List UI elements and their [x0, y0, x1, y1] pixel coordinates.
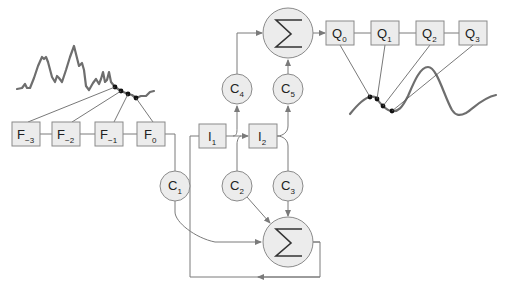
coefficient-c1: C1: [160, 171, 190, 201]
filter-tap-f-1: F−1: [95, 122, 123, 146]
coefficient-c4: C4: [222, 74, 252, 104]
output-tap-q1: Q1: [371, 21, 399, 45]
summer-bottom: [263, 217, 313, 267]
input-waveform: [17, 46, 154, 98]
coefficient-c3: C3: [273, 171, 303, 201]
wires: [40, 33, 459, 277]
output-signal: [340, 45, 496, 115]
filter-tap-f0: F0: [137, 122, 165, 146]
integrator-i1: I1: [199, 124, 226, 148]
coefficient-c2: C2: [222, 171, 252, 201]
filter-tap-f-3: F−3: [12, 122, 40, 146]
filter-tap-f-2: F−2: [52, 122, 80, 146]
input-signal: [17, 46, 154, 122]
output-tap-q0: Q0: [326, 21, 354, 45]
summer-top: [263, 8, 313, 58]
diagram-canvas: F−3 F−2 F−1 F0 I1 I2 Q0 Q1 Q2 Q3 C1: [0, 0, 508, 290]
output-waveform: [350, 67, 496, 115]
integrator-i2: I2: [249, 124, 277, 148]
coefficient-c5: C5: [273, 74, 303, 104]
output-tap-q2: Q2: [416, 21, 444, 45]
output-tap-q3: Q3: [459, 21, 487, 45]
